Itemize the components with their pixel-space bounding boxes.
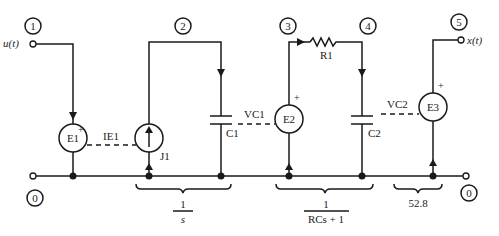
integrator-numerator: 1 — [180, 198, 186, 210]
lag-numerator: 1 — [323, 198, 329, 210]
arrow-up-icon — [145, 163, 153, 170]
svg-text:4: 4 — [365, 20, 371, 32]
input-terminal[interactable] — [30, 41, 36, 47]
vc2-label: VC2 — [387, 98, 408, 110]
c1-label: C1 — [226, 127, 239, 139]
arrow-right-icon — [297, 38, 305, 46]
svg-text:5: 5 — [456, 16, 462, 28]
j1-label: J1 — [160, 150, 170, 162]
e2-label: E2 — [283, 113, 295, 125]
input-label: u(t) — [3, 37, 19, 50]
arrow-up-icon — [145, 126, 153, 133]
brace-gain — [394, 184, 442, 193]
output-terminal[interactable] — [458, 37, 464, 43]
ground-terminal-right[interactable] — [463, 173, 469, 179]
c2-label: C2 — [368, 127, 381, 139]
capacitor-c1 — [210, 116, 232, 124]
ground-terminal-left[interactable] — [30, 173, 36, 179]
ie1-label: IE1 — [103, 130, 119, 142]
output-label: x(t) — [466, 34, 483, 47]
node-5-label: 5 — [451, 14, 467, 30]
svg-text:2: 2 — [180, 20, 186, 32]
svg-text:1: 1 — [30, 20, 36, 32]
node-3-label: 3 — [280, 18, 296, 34]
svg-text:3: 3 — [285, 20, 291, 32]
lag-denominator: RCs + 1 — [308, 213, 344, 225]
brace-lag — [276, 184, 373, 193]
capacitor-c2 — [351, 116, 373, 124]
gain-value: 52.8 — [408, 197, 428, 209]
wire-j1-c1 — [149, 42, 221, 124]
e3-label: E3 — [427, 101, 440, 113]
node-1-label: 1 — [25, 18, 41, 34]
circuit-diagram: 1 2 3 4 5 0 0 u(t) + E1 IE1 J1 — [0, 0, 499, 236]
node-2-label: 2 — [175, 18, 191, 34]
resistor-r1 — [310, 38, 362, 116]
arrow-down-icon — [69, 112, 77, 120]
integrator-denominator: s — [181, 213, 185, 225]
svg-text:0: 0 — [32, 192, 38, 204]
e1-label: E1 — [67, 132, 79, 144]
arrow-down-icon — [358, 69, 366, 77]
arrow-down-icon — [217, 69, 225, 77]
e2-plus: + — [294, 92, 300, 103]
arrow-up-icon — [429, 159, 437, 166]
e3-plus: + — [438, 80, 444, 91]
vc1-label: VC1 — [244, 108, 265, 120]
svg-text:0: 0 — [466, 187, 472, 199]
arrow-up-icon — [285, 163, 293, 170]
node-0-right-label: 0 — [461, 185, 477, 201]
node-4-label: 4 — [360, 18, 376, 34]
node-0-left-label: 0 — [27, 190, 43, 206]
r1-label: R1 — [320, 49, 333, 61]
wire-e3-output — [433, 40, 458, 93]
wire-input-e1 — [36, 44, 73, 124]
brace-integrator — [136, 184, 231, 193]
